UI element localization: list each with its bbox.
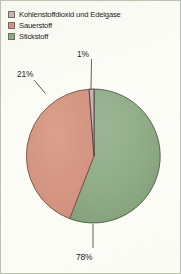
chart-legend: Kohlenstoffdioxid und Edelgase Sauerstof… [8, 9, 170, 42]
legend-label-oxygen: Sauerstoff [19, 21, 52, 30]
legend-swatch-oxygen-icon [8, 22, 15, 29]
leader-line-carbon-dioxide [91, 59, 92, 90]
legend-swatch-carbon-dioxide-icon [8, 11, 15, 18]
value-label-oxygen: 21% [17, 69, 33, 79]
value-label-nitrogen: 78% [76, 252, 92, 262]
value-label-carbon-dioxide: 1% [77, 49, 89, 59]
pie-chart-figure: Kohlenstoffdioxid und Edelgase Sauerstof… [0, 0, 181, 274]
leader-line-oxygen [34, 80, 46, 94]
legend-item-carbon-dioxide: Kohlenstoffdioxid und Edelgase [8, 9, 170, 19]
legend-label-nitrogen: Stickstoff [19, 32, 48, 41]
legend-swatch-nitrogen-icon [8, 33, 15, 40]
legend-item-nitrogen: Stickstoff [8, 31, 170, 41]
legend-item-oxygen: Sauerstoff [8, 20, 170, 30]
legend-label-carbon-dioxide: Kohlenstoffdioxid und Edelgase [19, 10, 121, 19]
